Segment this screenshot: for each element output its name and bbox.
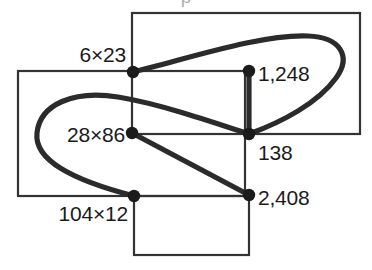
node-label-138: 138 (258, 142, 292, 163)
node-label-2408: 2,408 (258, 187, 310, 208)
node-label-1248: 1,248 (258, 63, 310, 84)
seg-2886-to-2408 (132, 133, 249, 195)
node-dot-6x23[interactable] (127, 66, 139, 78)
node-dot-1248[interactable] (243, 65, 255, 77)
node-label-104x12: 104×12 (59, 203, 128, 224)
curve-right-loop (133, 36, 343, 134)
diagram-canvas: p 6×23 1,248 28×86 138 104×12 2,408 (0, 0, 372, 270)
node-label-6x23: 6×23 (79, 44, 126, 65)
node-label-28x86: 28×86 (67, 124, 125, 145)
node-dot-138[interactable] (243, 128, 255, 140)
node-dot-104x12[interactable] (128, 190, 140, 202)
diagram-svg (0, 0, 372, 270)
rect-bottom (134, 196, 249, 255)
node-dot-2408[interactable] (243, 189, 255, 201)
node-dot-28x86[interactable] (126, 127, 138, 139)
